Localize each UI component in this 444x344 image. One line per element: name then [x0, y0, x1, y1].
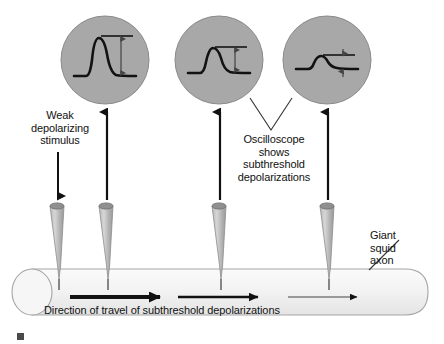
oscilloscope-label: Oscilloscope shows subthreshold depolari… [208, 133, 340, 183]
corner-mark [17, 333, 24, 340]
oscilloscope-leader-line [250, 98, 292, 130]
oscilloscope-trace-3[interactable] [283, 16, 371, 104]
oscilloscope-screen-1 [61, 16, 149, 104]
oscilloscope-screen-2 [175, 16, 263, 104]
oscilloscope-trace-1[interactable] [61, 16, 149, 104]
oscilloscope-trace-2[interactable] [175, 16, 263, 104]
giant-squid-axon-label: Giant squid axon [370, 229, 436, 267]
direction-of-travel-label: Direction of travel of subthreshold depo… [44, 304, 364, 317]
weak-stimulus-label: Weak depolarizing stimulus [18, 109, 102, 147]
